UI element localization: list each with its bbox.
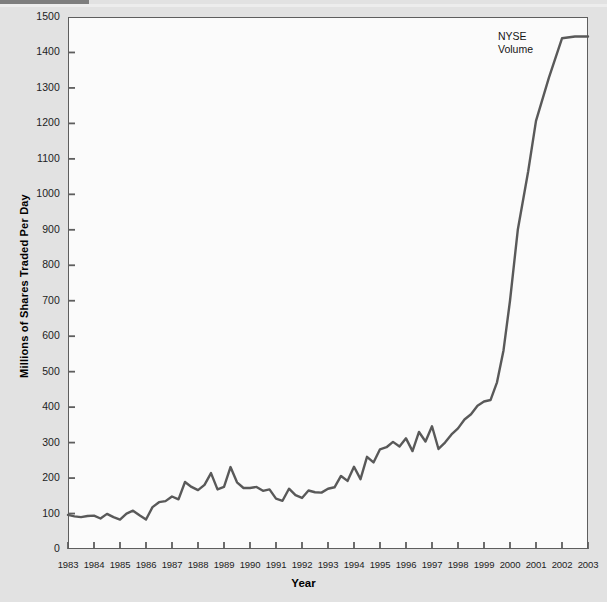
scan-edge-artifact-light <box>0 4 607 7</box>
x-axis-title: Year <box>0 577 607 589</box>
y-tick-label: 1300 <box>14 81 60 93</box>
y-tick-label: 200 <box>14 471 60 483</box>
series-annotation-nyse-volume: NYSE Volume <box>498 30 533 55</box>
x-tick-label: 2003 <box>573 559 603 570</box>
y-axis-title: Millions of Shares Traded Per Day <box>18 176 30 396</box>
y-tick-label: 300 <box>14 436 60 448</box>
y-tick-label: 0 <box>14 542 60 554</box>
y-tick-label: 100 <box>14 507 60 519</box>
y-tick-label: 1200 <box>14 116 60 128</box>
y-tick-label: 400 <box>14 400 60 412</box>
y-tick-label: 1500 <box>14 10 60 22</box>
chart-page: 0100200300400500600700800900100011001200… <box>0 0 607 602</box>
plot-area <box>68 17 588 549</box>
y-tick-label: 1100 <box>14 152 60 164</box>
y-tick-label: 1400 <box>14 45 60 57</box>
